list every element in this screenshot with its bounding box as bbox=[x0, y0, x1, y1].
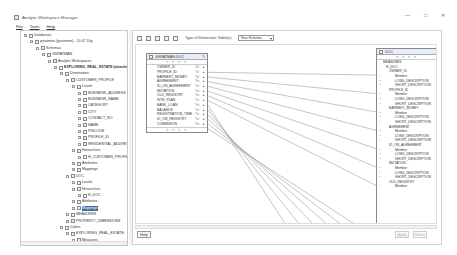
tree-node[interactable]: Hierarchies bbox=[72, 148, 100, 153]
expand-toggle-icon[interactable] bbox=[78, 143, 81, 146]
minimize-button[interactable]: — bbox=[405, 12, 410, 18]
expand-toggle-icon[interactable] bbox=[54, 66, 57, 69]
expand-toggle-icon[interactable] bbox=[72, 181, 75, 184]
add-table-icon[interactable] bbox=[155, 36, 160, 41]
expand-toggle-icon[interactable] bbox=[72, 85, 75, 88]
column-name: COMMISION bbox=[157, 122, 195, 126]
close-button[interactable]: ✕ bbox=[441, 12, 445, 18]
target-dimension[interactable]: DOC ≡ ≡ ≡ ≡ MEASURESH_DOCOWNER_ID•Member… bbox=[376, 48, 437, 224]
expand-toggle-icon[interactable] bbox=[24, 34, 27, 37]
tree-node[interactable]: Mappings bbox=[72, 167, 98, 172]
tree-node[interactable]: Dimensions bbox=[60, 71, 89, 76]
tree-horizontal-scrollbar[interactable] bbox=[21, 241, 127, 245]
tree-node[interactable]: Analytic Workspaces bbox=[48, 59, 91, 64]
schema-icon[interactable] bbox=[164, 36, 169, 41]
tree-node[interactable]: Databases bbox=[24, 33, 51, 38]
mapping-canvas[interactable]: GSRATMAN.DOC ✎ ≡ ≡ ≡ ≡ OWNER_IDTxt▸PROFI… bbox=[135, 44, 437, 224]
expand-toggle-icon[interactable] bbox=[36, 47, 39, 50]
expand-toggle-icon[interactable] bbox=[78, 130, 81, 133]
expand-toggle-icon[interactable] bbox=[78, 117, 81, 120]
expand-toggle-icon[interactable] bbox=[30, 40, 33, 43]
tree-node[interactable]: CUSTOMER_PROFILE bbox=[66, 78, 114, 83]
expand-toggle-icon[interactable] bbox=[72, 162, 75, 165]
expand-toggle-icon[interactable] bbox=[78, 111, 81, 114]
expand-toggle-icon[interactable] bbox=[78, 156, 81, 159]
tree-node[interactable]: NAME bbox=[78, 123, 98, 128]
tree-node[interactable]: GSRATMAN bbox=[42, 52, 72, 57]
expand-toggle-icon[interactable] bbox=[78, 194, 81, 197]
tree-node[interactable]: Attributes bbox=[72, 161, 97, 166]
tree-node[interactable]: Mappings bbox=[72, 206, 98, 211]
tree-node[interactable]: Schemas bbox=[36, 46, 61, 51]
tree-node[interactable]: PROPERTY_DIMENSIONS bbox=[66, 219, 120, 224]
table-view-icon[interactable] bbox=[146, 36, 151, 41]
expand-toggle-icon[interactable] bbox=[78, 124, 81, 127]
tree-node[interactable]: H_DOC bbox=[78, 193, 101, 198]
tree-node-label: NAME bbox=[88, 123, 98, 128]
folder-icon bbox=[77, 149, 81, 153]
target-row[interactable]: •Member bbox=[377, 184, 437, 189]
table-type-select[interactable]: Star Schema bbox=[238, 35, 274, 41]
maximize-button[interactable]: □ bbox=[424, 12, 427, 18]
expand-toggle-icon[interactable] bbox=[72, 149, 75, 152]
menu-tools[interactable]: Tools bbox=[30, 24, 40, 29]
apply-button[interactable]: Apply bbox=[395, 231, 409, 238]
expand-toggle-icon[interactable] bbox=[66, 232, 69, 235]
target-row-label: Member bbox=[383, 184, 407, 188]
tree-node[interactable]: PROFILE_ID bbox=[78, 135, 109, 140]
expand-toggle-icon[interactable] bbox=[78, 136, 81, 139]
expand-toggle-icon[interactable] bbox=[66, 213, 69, 216]
tree-node[interactable]: PINCODE bbox=[78, 129, 104, 134]
expand-toggle-icon[interactable] bbox=[48, 60, 51, 63]
tree-node[interactable]: Levels bbox=[72, 180, 92, 185]
tree-node[interactable]: EXPLORING_REAL_ESTATE (attached) bbox=[54, 65, 128, 70]
tree-node[interactable]: Cubes bbox=[60, 225, 80, 230]
expand-toggle-icon[interactable] bbox=[66, 175, 69, 178]
revert-button[interactable]: Revert bbox=[413, 231, 427, 238]
canvas-horizontal-scrollbar[interactable] bbox=[135, 225, 437, 229]
tree-node[interactable]: BUSINESS_ADDRESS bbox=[78, 91, 126, 96]
tree-node[interactable]: CITY bbox=[78, 110, 96, 115]
expand-toggle-icon[interactable] bbox=[72, 168, 75, 171]
tree-node[interactable]: CONTACT_NO bbox=[78, 116, 113, 121]
expand-toggle-icon[interactable] bbox=[78, 104, 81, 107]
connector-port-icon[interactable]: ▸ bbox=[203, 122, 207, 126]
expand-toggle-icon[interactable] bbox=[42, 53, 45, 56]
tree-node[interactable]: Attributes bbox=[72, 199, 97, 204]
tree-node[interactable]: H_CUSTOMER_PROFILE bbox=[78, 155, 128, 160]
expand-toggle-icon[interactable] bbox=[78, 92, 81, 95]
expand-toggle-icon[interactable] bbox=[72, 207, 75, 210]
tree-node[interactable]: EXPLORING_REAL_ESTATE bbox=[66, 231, 124, 236]
source-table[interactable]: GSRATMAN.DOC ✎ ≡ ≡ ≡ ≡ OWNER_IDTxt▸PROFI… bbox=[146, 53, 208, 133]
tree-node[interactable]: DOC bbox=[66, 174, 84, 179]
tree-node[interactable]: gsratman (gsratman) - 10.47 10g bbox=[30, 39, 93, 44]
tree-node[interactable]: BUSINESS_NAME bbox=[78, 97, 119, 102]
tree-node[interactable]: Levels bbox=[72, 84, 92, 89]
expand-toggle-icon[interactable] bbox=[60, 226, 63, 229]
help-button[interactable]: Help bbox=[137, 231, 151, 238]
tree-node-label: PROPERTY_DIMENSIONS bbox=[76, 219, 120, 224]
tree-node-label: Dimensions bbox=[70, 71, 89, 76]
source-column[interactable]: COMMISIONTxt▸ bbox=[147, 121, 207, 126]
tree-node[interactable]: Hierarchies bbox=[72, 187, 100, 192]
tree-node[interactable]: MEASURES bbox=[66, 212, 96, 217]
tree-node-label: RESIDENTIAL_ADDRESS bbox=[88, 142, 128, 147]
filter-icon[interactable] bbox=[173, 36, 178, 41]
menu-help[interactable]: Help bbox=[47, 24, 56, 29]
folder-icon bbox=[41, 46, 45, 50]
tree-node[interactable]: RESIDENTIAL_ADDRESS bbox=[78, 142, 128, 147]
tree-node-label: Levels bbox=[82, 180, 92, 185]
menu-file[interactable]: File bbox=[16, 24, 23, 29]
app-icon bbox=[14, 15, 19, 20]
expand-toggle-icon[interactable] bbox=[72, 188, 75, 191]
expand-toggle-icon[interactable] bbox=[60, 72, 63, 75]
window-controls: — □ ✕ bbox=[405, 12, 445, 18]
source-table-footer[interactable]: ≡ ≡ ≡ ≡ bbox=[147, 127, 207, 132]
tree-view-icon[interactable] bbox=[137, 36, 142, 41]
expand-toggle-icon[interactable] bbox=[66, 79, 69, 82]
expand-toggle-icon[interactable] bbox=[66, 220, 69, 223]
expand-toggle-icon[interactable] bbox=[78, 98, 81, 101]
edit-icon[interactable]: ✎ bbox=[202, 55, 205, 59]
expand-toggle-icon[interactable] bbox=[72, 200, 75, 203]
tree-node[interactable]: CATEGORY bbox=[78, 103, 108, 108]
